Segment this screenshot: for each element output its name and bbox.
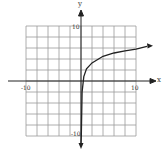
x-tick-min: -10 xyxy=(21,85,31,91)
curve-arrow-down-icon xyxy=(79,143,84,149)
y-axis-label: y xyxy=(78,1,82,8)
y-tick-min: -10 xyxy=(71,131,81,137)
y-tick-max: 10 xyxy=(72,24,80,30)
x-tick-max: 10 xyxy=(131,85,139,91)
y-axis-arrow-icon xyxy=(79,10,84,16)
x-axis-arrow-icon xyxy=(150,79,156,84)
curve-arrow-right-icon xyxy=(147,43,153,48)
x-axis-label: x xyxy=(157,77,161,84)
graph xyxy=(0,0,163,150)
